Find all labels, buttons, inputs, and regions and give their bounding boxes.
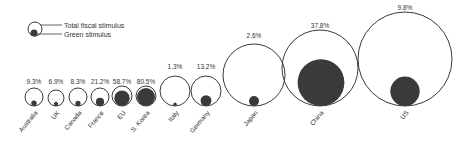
legend-green-label: Green stimulus bbox=[64, 31, 112, 38]
green-circle bbox=[114, 91, 129, 106]
pct-label: 80.5% bbox=[137, 78, 156, 85]
legend-green-circle-icon bbox=[31, 30, 38, 37]
country-label: Australia bbox=[17, 109, 39, 133]
green-circle bbox=[298, 59, 345, 106]
pct-label: 9.8% bbox=[398, 4, 413, 11]
country-label: S. Korea bbox=[129, 109, 151, 133]
pct-label: 8.3% bbox=[71, 78, 86, 85]
pct-label: 21.2% bbox=[91, 78, 110, 85]
bubble-france: 21.2% France bbox=[86, 78, 109, 129]
bubble-s-korea: 80.5% S. Korea bbox=[129, 78, 156, 133]
green-circle bbox=[390, 77, 419, 106]
country-label: Italy bbox=[167, 109, 181, 124]
green-circle bbox=[96, 98, 104, 106]
green-circle bbox=[137, 88, 155, 106]
country-label: US bbox=[399, 109, 411, 121]
bubble-japan: 2.6% Japan bbox=[223, 32, 285, 128]
bubble-italy: 1.3% Italy bbox=[160, 63, 190, 123]
bubble-germany: 13.2% Germany bbox=[188, 63, 221, 135]
pct-label: 1.3% bbox=[168, 63, 183, 70]
legend-total-label: Total fiscal stimulus bbox=[64, 22, 125, 29]
country-label: Japan bbox=[242, 109, 260, 128]
country-label: Canada bbox=[63, 109, 83, 131]
pct-label: 9.3% bbox=[27, 78, 42, 85]
legend: Total fiscal stimulus Green stimulus bbox=[28, 22, 125, 38]
pct-label: 2.6% bbox=[247, 32, 262, 39]
bubble-canada: 8.3% Canada bbox=[63, 78, 87, 131]
stimulus-bubble-chart: Total fiscal stimulus Green stimulus 9.3… bbox=[0, 0, 470, 148]
green-circle bbox=[54, 102, 58, 106]
total-circle bbox=[160, 76, 190, 106]
green-circle bbox=[173, 103, 176, 106]
bubble-uk: 6.9% UK bbox=[48, 78, 64, 121]
bubble-us: 9.8% US bbox=[358, 4, 452, 121]
bubble-australia: 9.3% Australia bbox=[17, 78, 43, 133]
pct-label: 37.8% bbox=[311, 22, 330, 29]
country-label: UK bbox=[50, 109, 62, 121]
pct-label: 13.2% bbox=[197, 63, 216, 70]
green-circle bbox=[249, 96, 259, 106]
country-label: EU bbox=[116, 109, 127, 121]
green-circle bbox=[31, 101, 36, 106]
green-circle bbox=[201, 95, 212, 106]
pct-label: 6.9% bbox=[49, 78, 64, 85]
bubble-eu: 58.7% EU bbox=[112, 78, 132, 121]
country-label: Germany bbox=[188, 109, 212, 135]
pct-label: 58.7% bbox=[113, 78, 132, 85]
country-label: China bbox=[308, 109, 325, 127]
green-circle bbox=[75, 101, 80, 106]
bubble-china: 37.8% China bbox=[282, 22, 358, 127]
country-label: France bbox=[86, 109, 105, 129]
